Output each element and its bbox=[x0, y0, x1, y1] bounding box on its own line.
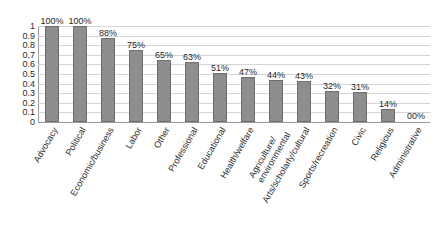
category-slot: Educational bbox=[206, 124, 234, 234]
bar[interactable]: 44% bbox=[269, 80, 284, 122]
bar-value-label: 44% bbox=[267, 71, 285, 80]
bar-value-label: 88% bbox=[99, 29, 117, 38]
category-slot: Sports/recreation bbox=[318, 124, 346, 234]
bar-slot: 63% bbox=[178, 26, 206, 122]
bar[interactable]: 14% bbox=[381, 109, 396, 122]
bar-slot: 100% bbox=[66, 26, 94, 122]
category-label: Civic bbox=[350, 126, 368, 148]
category-slot: Advocacy bbox=[38, 124, 66, 234]
plot-area: 100%100%88%75%65%63%51%47%44%43%32%31%14… bbox=[38, 26, 430, 122]
bar[interactable]: 51% bbox=[213, 73, 228, 122]
bar-value-label: 43% bbox=[295, 72, 313, 81]
category-label: Political bbox=[64, 126, 88, 158]
category-label: Labor bbox=[124, 126, 144, 151]
bar-value-label: 63% bbox=[183, 53, 201, 62]
bar-value-label: 51% bbox=[211, 64, 229, 73]
bar-value-label: 100% bbox=[40, 17, 63, 26]
bar-value-label: 32% bbox=[323, 82, 341, 91]
x-axis-category-labels: AdvocacyPoliticalEconomic/businessLaborO… bbox=[38, 124, 430, 234]
bar-slot: 43% bbox=[290, 26, 318, 122]
bar-slot: 47% bbox=[234, 26, 262, 122]
bar-value-label: 47% bbox=[239, 68, 257, 77]
category-slot: Religious bbox=[374, 124, 402, 234]
gridline bbox=[38, 122, 430, 123]
bar-slot: 44% bbox=[262, 26, 290, 122]
category-slot: Administrative bbox=[402, 124, 430, 234]
bar-value-label: 00% bbox=[407, 112, 425, 121]
bar[interactable]: 88% bbox=[101, 38, 116, 122]
category-label: Other bbox=[153, 126, 173, 150]
bar-value-label: 100% bbox=[68, 17, 91, 26]
bar[interactable]: 47% bbox=[241, 77, 256, 122]
bar[interactable]: 63% bbox=[185, 62, 200, 122]
bar-chart: 10.90.80.70.60.50.40.30.20.10 100%100%88… bbox=[0, 0, 436, 236]
bar[interactable]: 32% bbox=[325, 91, 340, 122]
y-axis-tick-label: 0 bbox=[2, 118, 38, 127]
category-label: Advocacy bbox=[32, 126, 60, 165]
category-slot: Civic bbox=[346, 124, 374, 234]
bar-value-label: 14% bbox=[379, 100, 397, 109]
bar-slot: 32% bbox=[318, 26, 346, 122]
bar-slot: 31% bbox=[346, 26, 374, 122]
bar-value-label: 75% bbox=[127, 41, 145, 50]
bar-value-label: 65% bbox=[155, 51, 173, 60]
bar-slot: 00% bbox=[402, 26, 430, 122]
category-label: Religious bbox=[369, 126, 396, 163]
category-slot: Economic/business bbox=[94, 124, 122, 234]
bar-slot: 65% bbox=[150, 26, 178, 122]
bar[interactable]: 100% bbox=[45, 26, 60, 122]
bar[interactable]: 43% bbox=[297, 81, 312, 122]
bar-value-label: 31% bbox=[351, 83, 369, 92]
bar-series: 100%100%88%75%65%63%51%47%44%43%32%31%14… bbox=[38, 26, 430, 122]
category-slot: Labor bbox=[122, 124, 150, 234]
bar[interactable]: 100% bbox=[73, 26, 88, 122]
bar-slot: 100% bbox=[38, 26, 66, 122]
bar-slot: 14% bbox=[374, 26, 402, 122]
category-slot: Other bbox=[150, 124, 178, 234]
y-axis-tick-labels: 10.90.80.70.60.50.40.30.20.10 bbox=[0, 26, 38, 122]
bar-slot: 51% bbox=[206, 26, 234, 122]
bar[interactable]: 75% bbox=[129, 50, 144, 122]
bar[interactable]: 31% bbox=[353, 92, 368, 122]
bar-slot: 75% bbox=[122, 26, 150, 122]
category-slot: Professional bbox=[178, 124, 206, 234]
bar-slot: 88% bbox=[94, 26, 122, 122]
bar[interactable]: 65% bbox=[157, 60, 172, 122]
